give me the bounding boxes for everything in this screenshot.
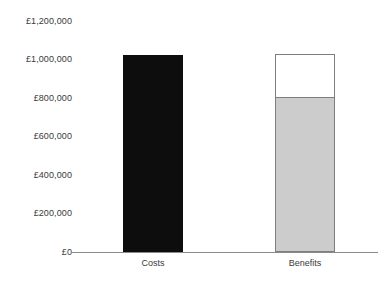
y-axis-tick-1200000: £1,200,000 — [0, 16, 72, 26]
bar-benefits-outline — [275, 54, 335, 252]
y-axis-tick-600000: £600,000 — [0, 131, 72, 141]
x-axis-tick-benefits: Benefits — [275, 258, 335, 269]
x-axis-tick-costs: Costs — [123, 258, 183, 269]
x-axis-line — [72, 252, 378, 253]
y-axis-tick-200000: £200,000 — [0, 208, 72, 218]
bar-benefits[interactable] — [275, 54, 335, 252]
y-axis-tick-400000: £400,000 — [0, 170, 72, 180]
plot-area — [72, 16, 378, 252]
y-axis-tick-0: £0 — [0, 247, 72, 257]
y-axis-tick-1000000: £1,000,000 — [0, 54, 72, 64]
bar-benefits-fill — [276, 97, 334, 251]
y-axis-tick-800000: £800,000 — [0, 93, 72, 103]
bar-costs-fill — [123, 55, 183, 252]
bar-costs[interactable] — [123, 55, 183, 252]
bar-chart: £1,200,000 £1,000,000 £800,000 £600,000 … — [0, 0, 389, 282]
